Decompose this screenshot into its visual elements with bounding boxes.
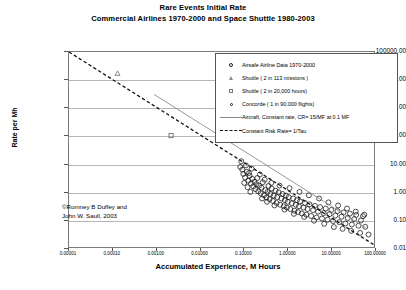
data-point-airline [246,171,251,176]
data-point-airline [239,159,244,164]
data-point-airline [269,186,274,191]
data-point-airline [241,171,246,176]
data-point-airline [288,207,293,212]
data-point-airline [333,213,338,218]
legend-label: Concorde ( 1 in 90,000 flights) [242,101,314,107]
data-point-shuttle-missions [115,71,120,76]
x-tick-label: 0.01000 [178,251,222,256]
data-point-airline [279,196,284,201]
x-tick-label: 1.00000 [265,251,309,256]
legend-marker-dashed-line-icon [220,130,242,131]
data-point-airline [353,209,358,214]
data-point-airline [269,180,274,185]
data-point-airline [301,205,306,210]
legend-label: Airsafe Airline Data 1970-2000 [242,62,315,68]
data-point-airline [278,202,283,207]
data-point-airline [264,195,269,200]
legend-marker-airline-circle-icon [229,63,233,67]
data-point-airline [322,221,327,226]
data-point-airline [297,204,302,209]
data-point-airline [362,212,367,217]
data-point-airline [247,173,252,178]
data-point-airline [286,195,291,200]
data-point-airline [339,214,344,219]
data-point-airline [307,202,312,207]
chart-title-block: Rare Events Initial Rate Commercial Airl… [0,3,406,24]
data-point-airline [275,195,280,200]
legend-item[interactable]: Constant Risk Rate= 1/Tau [220,124,394,137]
y-axis-label: Rate per Mh [11,83,18,173]
copyright-credit: ©Romney B Duffey and John W. Saull, 2003 [62,203,127,220]
data-point-airline [305,207,310,212]
legend-label: Constant Risk Rate= 1/Tau [242,128,306,134]
legend-marker-square-icon [229,89,232,92]
data-point-airline [291,196,296,201]
data-point-airline [272,203,277,208]
data-point-airline [295,210,300,215]
data-point-airline [248,181,253,186]
data-point-airline [267,197,272,202]
x-tick-mark [375,248,376,251]
data-point-airline [340,226,345,231]
data-point-airline [309,213,314,218]
data-point-airline [311,208,316,213]
data-point-airline [331,225,336,230]
data-point-airline [262,177,267,182]
legend-key [220,124,242,137]
data-point-airline [299,211,304,216]
data-point-airline [361,214,366,219]
data-point-airline [252,179,257,184]
data-point-airline [257,172,262,177]
data-point-airline [314,215,319,220]
data-point-airline [356,223,361,228]
legend-label: Shuttle ( 2 in 113 missions ) [242,75,308,81]
data-point-airline [336,203,341,208]
data-point-airline [317,196,322,201]
data-point-airline [282,198,287,203]
data-point-airline [260,196,265,201]
data-point-airline [297,199,302,204]
data-point-airline [341,210,346,215]
data-point-airline [265,199,270,204]
data-point-airline [284,205,289,210]
x-tick-label: 0.00010 [90,251,134,256]
legend-item[interactable]: Shuttle ( 2 in 113 missions ) [220,71,394,84]
data-point-airline [270,198,275,203]
data-point-airline [316,209,321,214]
data-point-airline [327,212,332,217]
legend-key [220,98,242,111]
x-axis-label: Accumulated Experience, M Hours [0,262,406,271]
data-point-airline [266,184,271,189]
chart-legend: Airsafe Airline Data 1970-2000Shuttle ( … [215,53,398,143]
legend-key [220,71,242,84]
legend-item[interactable]: Shuttle ( 2 in 20,000 hours) [220,84,394,97]
legend-marker-concorde-circle-icon [230,103,233,106]
data-point-airline [253,187,258,192]
data-point-airline [302,214,307,219]
x-tick-mark [200,248,201,251]
data-point-airline [283,193,288,198]
legend-label: Shuttle ( 2 in 20,000 hours) [242,88,307,94]
legend-label: Aircraft, Constant rate, CR= 15/MF at 0.… [242,114,349,120]
data-point-airline [293,202,298,207]
data-point-airline [254,182,259,187]
legend-item[interactable]: Aircraft, Constant rate, CR= 15/MF at 0.… [220,111,394,124]
data-point-airline [250,176,255,181]
x-tick-mark [243,248,244,251]
x-tick-label: 0.00001 [46,251,90,256]
data-point-airline [240,167,245,172]
legend-item[interactable]: Concorde ( 1 in 90,000 flights) [220,98,394,111]
data-point-airline [291,211,296,216]
x-tick-label: 100.00000 [353,251,397,256]
legend-item[interactable]: Airsafe Airline Data 1970-2000 [220,58,394,71]
data-point-airline [329,207,334,212]
data-point-airline [243,175,248,180]
x-tick-mark [331,248,332,251]
data-point-airline [246,178,251,183]
data-point-airline [363,224,368,229]
legend-key [220,111,242,124]
gridline [69,193,374,194]
data-point-airline [335,209,340,214]
data-point-airline [242,180,247,185]
credit-line-1: ©Romney B Duffey and [62,203,127,212]
